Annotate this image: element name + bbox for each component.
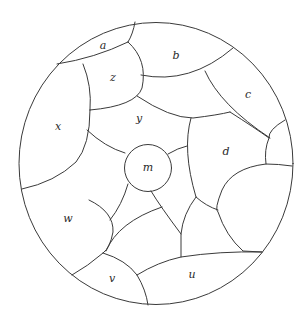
boundary-lower-right-region (217, 164, 292, 252)
label-region-m: m (143, 161, 153, 174)
boundary-z-right (90, 42, 143, 110)
boundary-center-vertical (181, 197, 196, 257)
boundary-c-d-right (230, 112, 269, 138)
boundary-b-bottom (141, 48, 233, 77)
boundary-u-top (137, 252, 262, 275)
boundary-d-left (187, 118, 218, 210)
label-region-c: c (245, 88, 251, 101)
boundary-x-z (83, 64, 90, 110)
boundary-right-sliver (265, 120, 285, 164)
label-region-d: d (222, 145, 229, 158)
region-labels: a b c z x y m d w v u (55, 39, 251, 285)
label-region-a: a (100, 39, 107, 52)
label-region-w: w (63, 212, 73, 225)
boundary-a-bottom (57, 42, 128, 64)
label-region-z: z (109, 71, 116, 84)
region-map-diagram: a b c z x y m d w v u (0, 0, 308, 323)
label-region-v: v (109, 272, 116, 285)
label-region-y: y (135, 112, 143, 125)
boundary-b-c (205, 71, 270, 138)
boundary-x-m (87, 130, 125, 153)
boundary-m-d (168, 146, 187, 154)
outer-boundary-circle (19, 23, 293, 305)
label-region-u: u (188, 268, 195, 281)
boundary-m-bottom (151, 191, 181, 234)
boundary-y-c (137, 96, 230, 118)
boundary-w-m (110, 184, 128, 220)
label-region-x: x (55, 120, 62, 133)
boundary-w-right (72, 200, 113, 275)
label-region-b: b (172, 49, 179, 62)
